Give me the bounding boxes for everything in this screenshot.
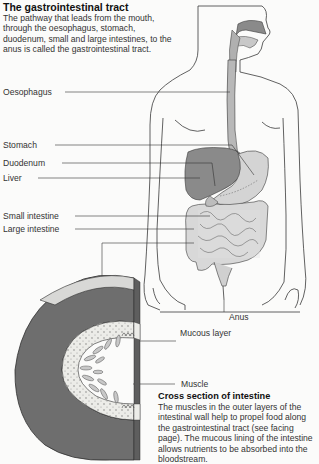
label-duodenum: Duodenum <box>3 158 45 168</box>
label-small-intestine: Small intestine <box>3 211 59 221</box>
cross-section-title: Cross section of intestine <box>158 391 318 402</box>
cross-section-text: The muscles in the outer layers of the i… <box>158 402 318 464</box>
label-mucous-layer: Mucous layer <box>180 328 231 338</box>
label-stomach: Stomach <box>3 140 37 150</box>
cross-section-caption: Cross section of intestine The muscles i… <box>158 391 318 464</box>
label-liver: Liver <box>3 173 22 183</box>
label-large-intestine: Large intestine <box>3 224 59 234</box>
intro-block: The gastrointestinal tract The pathway t… <box>3 1 173 55</box>
main-title: The gastrointestinal tract <box>3 1 173 13</box>
label-muscle: Muscle <box>181 379 208 389</box>
intro-text: The pathway that leads from the mouth, t… <box>3 13 173 55</box>
label-anus: Anus <box>229 312 249 322</box>
intestine-cross-section <box>15 275 140 460</box>
label-oesophagus: Oesophagus <box>3 87 52 97</box>
